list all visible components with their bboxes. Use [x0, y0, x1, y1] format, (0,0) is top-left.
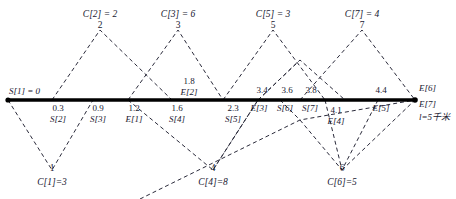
axis-mark-value-3-6: 3.6: [281, 85, 292, 95]
axis-start-label: S[1] = 0: [9, 86, 40, 96]
zigzag-schedule-figure: C[2] = 2 C[3] = 6 C[5] = 3 C[7] = 4 2 3 …: [0, 0, 456, 199]
valley-caption-4: C[4]=8: [198, 177, 228, 187]
figure-canvas: [0, 0, 456, 199]
axis-mark-value-4-4: 4.4: [375, 85, 386, 95]
axis-mark-value-0-3: 0.3: [52, 103, 63, 113]
peak-caption-5: C[5] = 3: [256, 9, 290, 19]
axis-mark-name-S5: S[5]: [225, 114, 241, 124]
valley-node-6: 6: [340, 163, 345, 173]
valley-caption-1: C[1]=3: [37, 177, 67, 187]
axis-mark-value-3-4: 3.4: [256, 85, 267, 95]
peak-node-5: 5: [271, 20, 276, 30]
zigzag-segment-2: [52, 30, 172, 100]
peak-node-2: 2: [98, 20, 103, 30]
axis-mark-value-1-2: 1.2: [128, 103, 139, 113]
axis-mark-name-E4: E[4]: [327, 116, 344, 126]
peak-caption-2: C[2] = 2: [83, 9, 117, 19]
axis-end-label-E6: E[6]: [419, 83, 436, 93]
zigzag-segment-9: [300, 30, 415, 100]
axis-end-label-E7: E[7]: [419, 99, 436, 109]
axis-mark-name-E2: E[2]: [180, 87, 197, 97]
axis-mark-value-2-3: 2.3: [227, 103, 238, 113]
peak-caption-7: C[7] = 4: [345, 9, 379, 19]
axis-mark-name-S4: S[4]: [169, 114, 185, 124]
axis-mark-name-E1: E[1]: [125, 114, 142, 124]
dashed-zigzag-paths: [8, 30, 415, 199]
axis-mark-value-1-8: 1.8: [183, 76, 194, 86]
axis-end-label-length: l=5千米: [419, 112, 450, 122]
peak-caption-3: C[3] = 6: [161, 9, 195, 19]
valley-node-4: 4: [211, 163, 216, 173]
axis-mark-name-E3: E[3]: [250, 103, 267, 113]
valley-caption-6: C[6]=5: [327, 177, 357, 187]
axis-mark-name-S7: S[7]: [302, 103, 318, 113]
zigzag-segment-4: [128, 30, 223, 100]
axis-mark-name-E5: E[5]: [372, 103, 389, 113]
zigzag-segment-1: [8, 100, 93, 170]
peak-node-7: 7: [360, 20, 365, 30]
axis-start-marker: [5, 97, 10, 102]
axis-mark-name-S3: S[3]: [90, 114, 106, 124]
axis-mark-value-1-6: 1.6: [171, 103, 182, 113]
axis-mark-value-3-8: 3.8: [305, 85, 316, 95]
axis-mark-name-S6: S[6]: [277, 103, 293, 113]
peak-node-3: 3: [176, 20, 181, 30]
valley-node-1: 1: [50, 163, 55, 173]
axis-mark-value-4-1: 4.1: [330, 105, 341, 115]
axis-mark-value-0-9: 0.9: [92, 103, 103, 113]
zigzag-segment-15: [258, 60, 345, 100]
axis-end-marker: [412, 97, 418, 103]
axis-mark-name-S2: S[2]: [50, 114, 66, 124]
